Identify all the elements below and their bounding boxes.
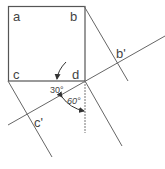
label-c-prime: c' [34,115,43,130]
label-angle-30: 30° [50,85,64,95]
label-d: d [72,67,79,82]
label-angle-60: 60° [67,96,81,106]
label-b-prime: b' [116,46,126,61]
label-a: a [13,9,21,24]
label-b: b [70,9,77,24]
projection-diagram: a b c d b' c' 30° 60° [0,0,165,169]
label-c: c [13,67,20,82]
projector-line-c [8,81,52,157]
angle-30-arrow-icon [57,62,66,79]
projector-line-d [85,81,122,146]
